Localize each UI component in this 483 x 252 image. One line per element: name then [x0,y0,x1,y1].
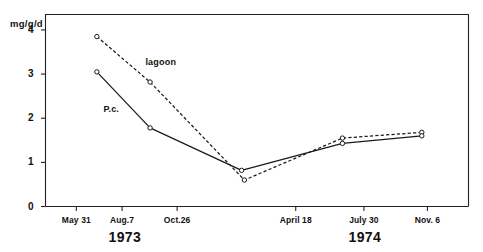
data-point-marker [340,136,344,140]
x-axis-tick-label: Aug.7 [110,215,134,225]
data-point-marker [420,134,424,138]
x-axis-tick-label: July 30 [349,215,379,225]
chart-figure: mg/g/d 01234 May 31Aug.7Oct.26April 18Ju… [0,0,483,252]
x-axis-tick-label: May 31 [62,215,91,225]
y-axis-tick-label: 1 [18,156,34,167]
data-point-marker [95,70,99,74]
data-point-marker [242,178,246,182]
y-axis-tick-label: 3 [18,68,34,79]
axis-ticks [41,30,427,211]
data-point-marker [148,126,152,130]
y-axis-tick-label: 0 [18,201,34,212]
x-axis-tick-label: Nov. 6 [415,215,440,225]
data-point-marker [340,141,344,145]
x-axis-tick-label: April 18 [280,215,312,225]
x-axis-tick-label: Oct.26 [164,215,191,225]
data-point-marker [239,168,243,172]
x-axis-year-label: 1973 [108,229,141,245]
series-label-lagoon: lagoon [145,57,176,67]
series-line-pc [97,72,422,170]
data-point-marker [95,34,99,38]
data-point-marker [148,80,152,84]
y-axis-tick-label: 2 [18,112,34,123]
series-label-pc: P.c. [103,104,119,114]
y-axis-tick-label: 4 [18,24,34,35]
x-axis-year-label: 1974 [348,229,381,245]
data-series-group [95,34,424,182]
